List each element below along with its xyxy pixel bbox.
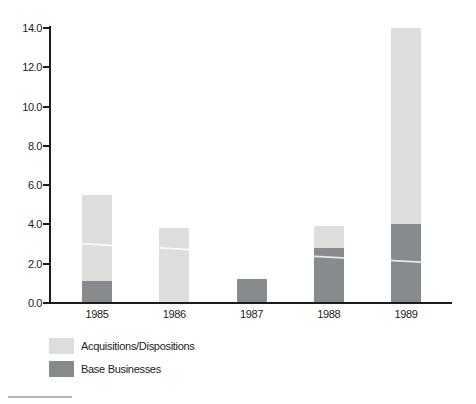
legend-label: Acquisitions/Dispositions — [81, 340, 195, 352]
y-axis-tick-label: 4.0 — [9, 218, 42, 230]
y-axis-tick-label: 8.0 — [9, 140, 42, 152]
x-axis-label-1985: 1985 — [75, 308, 119, 320]
legend-item-acquisitions-dispositions: Acquisitions/Dispositions — [49, 338, 195, 354]
x-axis-label-1987: 1987 — [230, 308, 274, 320]
legend-item-base-businesses: Base Businesses — [49, 361, 195, 377]
bar-segment-base-businesses-1985 — [82, 281, 112, 303]
acquisitions-dispositions-swatch — [49, 338, 74, 354]
y-axis-line — [49, 26, 51, 304]
x-axis-label-1988: 1988 — [307, 308, 351, 320]
y-axis-tick-label: 2.0 — [9, 258, 42, 270]
base-businesses-swatch — [49, 361, 74, 377]
legend-label: Base Businesses — [81, 363, 161, 375]
x-axis-label-1986: 1986 — [152, 308, 196, 320]
bar-segment-acquisitions-dispositions-1986 — [159, 228, 189, 303]
y-axis-tick-label: 0.0 — [9, 297, 42, 309]
x-axis-line — [49, 302, 452, 304]
bar-segment-acquisitions-dispositions-1988 — [314, 226, 344, 248]
bar-segment-base-businesses-1988 — [314, 248, 344, 303]
bar-segment-base-businesses-1989 — [391, 224, 421, 303]
x-axis-label-1989: 1989 — [384, 308, 428, 320]
bar-chart-figure: 0.02.04.06.08.010.012.014.01985198619871… — [0, 0, 476, 404]
page-rule-line — [8, 396, 72, 398]
y-axis-tick-label: 10.0 — [9, 101, 42, 113]
bar-segment-acquisitions-dispositions-1985 — [82, 195, 112, 281]
y-axis-tick-label: 12.0 — [9, 61, 42, 73]
chart-legend: Acquisitions/Dispositions Base Businesse… — [49, 338, 195, 384]
bar-segment-base-businesses-1987 — [237, 279, 267, 303]
y-axis-tick-label: 6.0 — [9, 179, 42, 191]
y-axis-tick-label: 14.0 — [9, 22, 42, 34]
bar-segment-acquisitions-dispositions-1989 — [391, 28, 421, 224]
